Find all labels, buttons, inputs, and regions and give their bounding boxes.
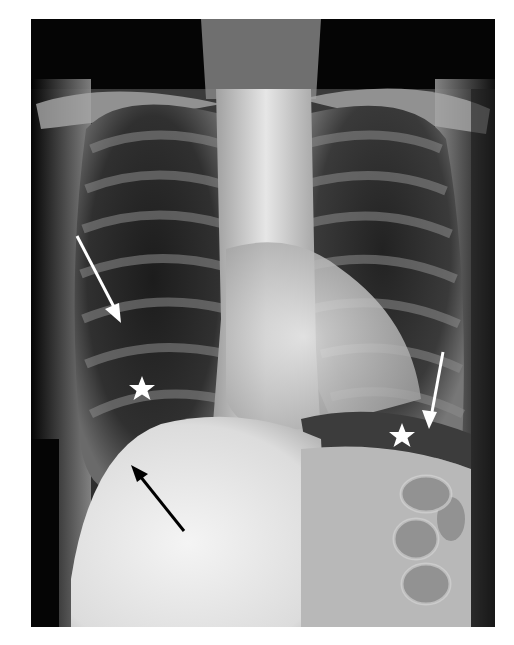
chest-xray-image <box>31 19 495 627</box>
